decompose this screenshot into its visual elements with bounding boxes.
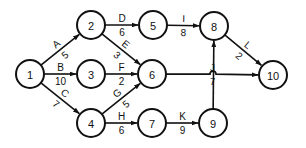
node-label: 10: [267, 70, 279, 82]
edge-h: H6: [105, 111, 137, 136]
node-label: 2: [88, 20, 94, 32]
edge-arrow: [41, 83, 79, 114]
duration-label: 5: [59, 49, 71, 61]
duration-label: 2: [119, 76, 125, 87]
edge-e: E3: [102, 34, 140, 65]
duration-label: 9: [180, 125, 186, 136]
edge-l: L2: [225, 35, 262, 65]
edge-arrow: [167, 25, 199, 26]
activity-label: B: [57, 62, 64, 73]
node-4: 4: [77, 109, 105, 137]
node-3: 3: [77, 60, 105, 88]
duration-label: 8: [181, 27, 187, 38]
node-label: 6: [149, 69, 155, 81]
duration-label: 3: [112, 49, 124, 61]
node-label: 3: [88, 69, 94, 81]
edge-arrow: [213, 41, 214, 109]
edge-j: J7: [166, 62, 258, 87]
edge-arrow: [225, 35, 262, 65]
node-9: 9: [199, 109, 227, 137]
node-6: 6: [138, 60, 166, 88]
node-label: 4: [88, 118, 94, 130]
edge-c: C7: [41, 83, 79, 114]
duration-label: 2: [233, 50, 245, 62]
node-1: 1: [16, 60, 44, 88]
edge-i: I8: [167, 13, 199, 38]
activity-label: H: [118, 111, 125, 122]
node-10: 10: [259, 61, 287, 89]
activity-label: L: [242, 39, 254, 51]
activity-label: I: [182, 13, 185, 24]
node-label: 5: [150, 20, 156, 32]
node-8: 8: [200, 12, 228, 40]
node-label: 9: [210, 118, 216, 130]
node-label: 7: [149, 118, 155, 130]
duration-label: 6: [119, 27, 125, 38]
activity-label: K: [179, 111, 186, 122]
duration-label: 6: [119, 125, 125, 136]
node-7: 7: [138, 109, 166, 137]
edge-b: B10: [44, 62, 76, 87]
node-2: 2: [77, 11, 105, 39]
duration-label: 5: [120, 98, 132, 110]
duration-label: 10: [55, 76, 67, 87]
edge-arrow: [102, 34, 140, 65]
node-label: 1: [27, 69, 33, 81]
node-label: 8: [211, 21, 217, 33]
edge-f: F2: [105, 62, 137, 87]
edge-dummy: [213, 41, 214, 109]
network-diagram: A5B10C7D6E3F2G5H6I8J7K9L2 12345678910: [0, 0, 306, 148]
activity-label: F: [118, 62, 124, 73]
edge-k: K9: [166, 111, 198, 136]
edge-d: D6: [105, 13, 138, 38]
activity-label: D: [118, 13, 125, 24]
node-5: 5: [139, 11, 167, 39]
duration-label: 7: [51, 98, 63, 110]
